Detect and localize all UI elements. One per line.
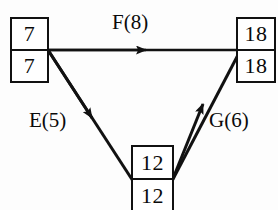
node-end-top-value: 18 bbox=[238, 19, 274, 49]
node-end[interactable]: 18 18 bbox=[236, 17, 276, 83]
node-start[interactable]: 7 7 bbox=[10, 17, 49, 83]
node-end-bottom-value: 18 bbox=[238, 49, 274, 81]
node-start-top-value: 7 bbox=[12, 19, 47, 49]
edge-label-g: G(6) bbox=[209, 108, 249, 133]
node-mid[interactable]: 12 12 bbox=[131, 145, 174, 210]
network-diagram-canvas: 7 7 18 18 12 12 F(8) E(5) G(6) bbox=[0, 0, 278, 210]
node-mid-bottom-value: 12 bbox=[133, 178, 172, 210]
node-start-bottom-value: 7 bbox=[12, 49, 47, 81]
node-mid-top-value: 12 bbox=[133, 147, 172, 178]
edge-label-f: F(8) bbox=[112, 10, 148, 35]
edge-label-e: E(5) bbox=[29, 108, 66, 133]
edge-g-arrowhead bbox=[172, 104, 203, 181]
